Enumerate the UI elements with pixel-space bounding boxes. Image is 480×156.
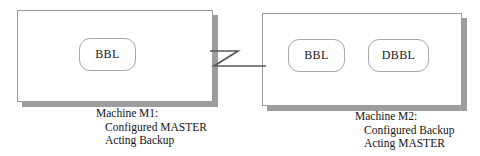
process-box-m2-dbbl[interactable]: DBBL (368, 39, 429, 72)
machine-m2-caption: Machine M2: Configured Backup Acting MAS… (355, 110, 454, 151)
caption-line-acting: Acting MASTER (355, 137, 454, 151)
process-box-m1-bbl[interactable]: BBL (79, 38, 136, 71)
diagram-canvas: BBL BBL DBBL Machine M1: Configured MAST… (0, 0, 480, 156)
caption-line-head: Machine M2: (355, 110, 454, 124)
network-link-connector (210, 44, 266, 70)
process-label: BBL (304, 48, 329, 63)
caption-line-configured: Configured MASTER (96, 121, 207, 135)
caption-line-head: Machine M1: (96, 107, 207, 121)
caption-line-configured: Configured Backup (355, 124, 454, 138)
caption-line-acting: Acting Backup (96, 134, 207, 148)
process-label: DBBL (382, 48, 416, 63)
machine-m1-caption: Machine M1: Configured MASTER Acting Bac… (96, 107, 207, 148)
process-label: BBL (95, 47, 120, 62)
process-box-m2-bbl[interactable]: BBL (288, 39, 345, 72)
network-link-path (210, 51, 266, 66)
